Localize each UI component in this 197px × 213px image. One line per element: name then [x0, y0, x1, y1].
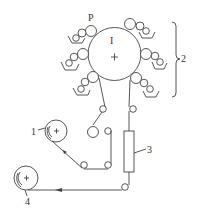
unwind-roll	[45, 120, 67, 142]
printing-unit-right-mid	[141, 49, 168, 70]
dryer	[124, 131, 134, 172]
printing-unit-left-bottom	[73, 72, 99, 96]
guide-roller	[130, 106, 137, 113]
units-label: 2	[181, 53, 186, 64]
printing-unit-right-bottom	[131, 73, 160, 98]
printing-unit-left-mid	[61, 49, 89, 71]
guide-roller	[88, 127, 99, 138]
guide-roller	[122, 184, 129, 191]
group-bracket	[172, 22, 180, 97]
guide-roller	[100, 106, 107, 113]
guide-roller	[105, 162, 112, 169]
rewind-label: 4	[25, 196, 30, 207]
press-diagram: I P 2	[0, 0, 197, 213]
cylinder-label: I	[110, 35, 113, 46]
dryer-label: 3	[147, 144, 152, 155]
rewind-roll	[14, 166, 38, 190]
web-direction-arrow	[55, 188, 62, 192]
unwind-label: 1	[31, 126, 36, 137]
guide-roller	[105, 128, 112, 135]
plate-label: P	[88, 12, 94, 23]
